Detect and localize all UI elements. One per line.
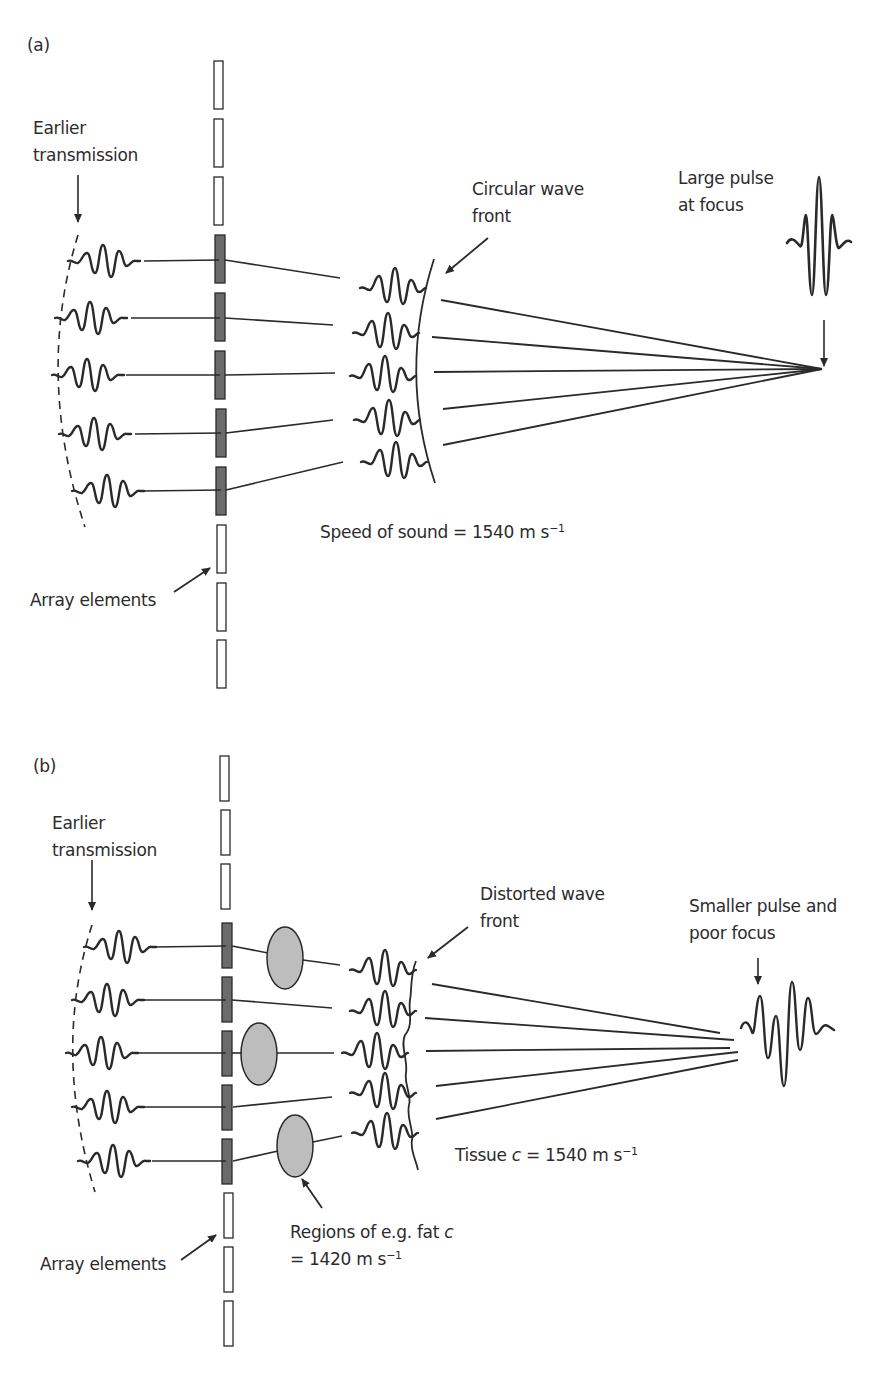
earlier-transmission-label-b-line1: Earlier: [52, 812, 105, 834]
pulse-waveform-icon: [350, 356, 416, 392]
array-element-icon: [217, 525, 226, 573]
array-elements-b: [220, 756, 233, 1346]
pulse-waveform-icon: [350, 950, 416, 986]
fat-exponent: −1: [386, 1249, 402, 1262]
pulse-waveform-icon: [68, 245, 140, 277]
array-element-icon: [224, 1193, 233, 1238]
smaller-pulse-icon: [741, 982, 834, 1086]
pulse-waveform-icon: [59, 418, 131, 450]
panel-b: [66, 756, 834, 1346]
panel-b-tag: (b): [33, 755, 56, 777]
pulse-waveform-icon: [72, 984, 144, 1016]
fat-value: = 1420 m s: [290, 1249, 386, 1269]
arrow-icon: [446, 238, 488, 273]
fat-region-ellipse-icon: [267, 927, 303, 989]
pulse-waveform-icon: [52, 359, 124, 391]
pulse-waveform-icon: [84, 931, 156, 963]
arrow-icon: [174, 568, 210, 592]
pulse-waveform-icon: [361, 442, 427, 478]
array-element-icon: [217, 583, 226, 631]
pulse-waveform-icon: [55, 302, 127, 334]
tissue-prefix: Tissue: [455, 1145, 512, 1165]
pulse-waveform-icon: [78, 1145, 150, 1177]
fat-region-label-line2: = 1420 m s−1: [290, 1248, 402, 1270]
array-element-icon: [224, 1247, 233, 1292]
large-pulse-icon: [787, 177, 851, 295]
focus-label-b-line1: Smaller pulse and: [689, 895, 837, 917]
pulse-waveform-icon: [342, 1033, 408, 1069]
speed-of-sound-text: Speed of sound = 1540 m s: [320, 522, 549, 542]
converging-lines-b: [425, 984, 738, 1119]
fat-region-ellipse-icon: [241, 1023, 277, 1085]
arrow-icon: [428, 927, 468, 958]
fat-regions: [241, 927, 313, 1177]
array-element-icon: [216, 467, 226, 515]
pulse-waveform-icon: [353, 313, 419, 349]
speed-exponent: −1: [549, 522, 565, 535]
earlier-wavefront-arc: [73, 925, 95, 1192]
tissue-speed-label: Tissue c = 1540 m s−1: [455, 1144, 638, 1166]
focus-label-b-line2: poor focus: [689, 922, 775, 944]
converging-lines-a: [432, 300, 822, 445]
array-element-icon: [215, 293, 225, 341]
array-element-icon: [214, 177, 223, 225]
fat-region-ellipse-icon: [277, 1115, 313, 1177]
pulse-waveform-icon: [72, 475, 144, 507]
pulse-waveform-icon: [354, 400, 420, 436]
panel-a-tag: (a): [27, 34, 50, 56]
wavefront-label-b-line2: front: [480, 910, 519, 932]
fat-prefix: Regions of e.g. fat: [290, 1222, 444, 1242]
earlier-transmission-label-a-line2: transmission: [33, 144, 138, 166]
focus-label-a-line2: at focus: [678, 194, 743, 216]
speed-of-sound-label: Speed of sound = 1540 m s−1: [320, 521, 565, 543]
array-element-icon: [214, 61, 223, 109]
fat-var: c: [444, 1222, 453, 1242]
array-elements-label-a: Array elements: [30, 589, 156, 611]
pulse-waveform-icon: [360, 268, 426, 304]
focus-label-a-line1: Large pulse: [678, 167, 774, 189]
array-element-icon: [214, 119, 223, 167]
wavefront-label-b-line1: Distorted wave: [480, 883, 605, 905]
distorted-wavefront: [403, 961, 418, 1170]
feed-lines-b: [135, 946, 342, 1161]
feed-lines-a: [126, 260, 343, 491]
panel-a: [52, 61, 851, 688]
pulse-waveform-icon: [350, 991, 416, 1027]
ultrasound-focusing-diagram: [0, 0, 881, 1376]
array-element-icon: [224, 1301, 233, 1346]
array-element-icon: [215, 235, 225, 283]
wavefront-label-a-line2: front: [472, 205, 511, 227]
array-element-icon: [221, 810, 230, 855]
pulse-waveform-icon: [72, 1091, 144, 1123]
array-element-icon: [217, 640, 226, 688]
array-element-icon: [220, 756, 229, 801]
fat-region-label-line1: Regions of e.g. fat c: [290, 1221, 453, 1243]
pulse-waveform-icon: [66, 1037, 138, 1069]
arrow-icon: [302, 1179, 322, 1208]
wavefront-label-a-line1: Circular wave: [472, 178, 584, 200]
tissue-value: = 1540 m s: [521, 1145, 622, 1165]
array-elements-label-b: Array elements: [40, 1253, 166, 1275]
tissue-exponent: −1: [622, 1145, 638, 1158]
pulse-waveform-icon: [352, 1113, 418, 1149]
earlier-transmission-label-a-line1: Earlier: [33, 117, 86, 139]
array-element-icon: [221, 864, 230, 909]
arrow-icon: [181, 1235, 216, 1260]
tissue-var: c: [512, 1145, 521, 1165]
earlier-transmission-label-b-line2: transmission: [52, 839, 157, 861]
